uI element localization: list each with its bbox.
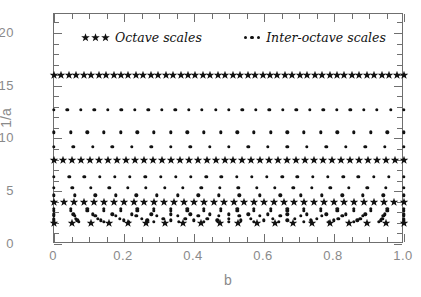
inter-octave-scale-point bbox=[356, 219, 359, 222]
tick-mark bbox=[159, 237, 160, 242]
octave-scale-point bbox=[274, 155, 283, 164]
inter-octave-scale-point bbox=[208, 145, 211, 148]
inter-octave-scale-point bbox=[163, 186, 166, 189]
inter-octave-scale-point bbox=[322, 108, 325, 111]
inter-octave-scale-point bbox=[135, 214, 138, 217]
tick-mark bbox=[397, 128, 402, 129]
inter-octave-scale-point bbox=[402, 108, 405, 111]
octave-scale-point bbox=[301, 155, 310, 164]
inter-octave-scale-point bbox=[169, 130, 172, 133]
inter-octave-scale-point bbox=[258, 214, 261, 217]
inter-octave-scale-point bbox=[359, 217, 362, 220]
tick-mark bbox=[124, 234, 125, 242]
inter-octave-scale-point bbox=[357, 175, 360, 178]
inter-octave-scale-point bbox=[320, 214, 323, 217]
inter-octave-scale-point bbox=[147, 108, 150, 111]
inter-octave-scale-point bbox=[52, 175, 55, 178]
x-tick-label: 0.8 bbox=[323, 248, 343, 263]
octave-scale-point bbox=[238, 155, 247, 164]
dot-icon bbox=[243, 36, 261, 39]
octave-scale-point bbox=[184, 155, 193, 164]
octave-scale-point bbox=[140, 197, 149, 206]
inter-octave-scale-point bbox=[302, 130, 305, 133]
tick-mark bbox=[387, 237, 388, 242]
inter-octave-scale-point bbox=[98, 175, 101, 178]
tick-mark bbox=[397, 117, 402, 118]
inter-octave-scale-point bbox=[325, 212, 328, 215]
inter-octave-scale-point bbox=[247, 212, 250, 215]
tick-mark bbox=[317, 14, 318, 19]
octave-scale-point bbox=[210, 197, 219, 206]
tick-mark bbox=[54, 22, 59, 23]
inter-octave-scale-point bbox=[250, 175, 253, 178]
y-tick-label: 20 bbox=[0, 24, 14, 39]
inter-octave-scale-point bbox=[279, 214, 282, 217]
inter-octave-scale-point bbox=[268, 108, 271, 111]
figure-root: 1/a b 05101520 00.20.40.60.81.0 Octave s… bbox=[0, 0, 421, 297]
octave-scale-point bbox=[157, 155, 166, 164]
inter-octave-scale-point bbox=[308, 108, 311, 111]
inter-octave-scale-point bbox=[133, 108, 136, 111]
inter-octave-scale-point bbox=[102, 209, 105, 212]
tick-mark bbox=[247, 14, 248, 19]
inter-octave-scale-point bbox=[71, 186, 74, 189]
inter-octave-scale-point bbox=[181, 186, 184, 189]
inter-octave-scale-point bbox=[369, 130, 372, 133]
inter-octave-scale-point bbox=[52, 130, 55, 133]
tick-mark bbox=[264, 234, 265, 242]
inter-octave-scale-point bbox=[219, 209, 222, 212]
inter-octave-scale-point bbox=[375, 108, 378, 111]
inter-octave-scale-point bbox=[319, 130, 322, 133]
tick-mark bbox=[397, 22, 402, 23]
octave-scale-point bbox=[310, 155, 319, 164]
inter-octave-scale-point bbox=[266, 212, 269, 215]
inter-octave-scale-point bbox=[68, 175, 71, 178]
tick-mark bbox=[352, 237, 353, 242]
octave-scale-point bbox=[202, 155, 211, 164]
inter-octave-scale-point bbox=[174, 175, 177, 178]
tick-mark bbox=[397, 54, 402, 55]
inter-octave-scale-point bbox=[281, 108, 284, 111]
octave-scale-point bbox=[319, 155, 328, 164]
inter-octave-scale-point bbox=[332, 219, 335, 222]
inter-octave-scale-point bbox=[299, 214, 302, 217]
inter-octave-scale-point bbox=[86, 209, 89, 212]
inter-octave-scale-point bbox=[402, 145, 405, 148]
octave-scale-point bbox=[360, 197, 369, 206]
inter-octave-scale-point bbox=[286, 130, 289, 133]
octave-scale-point bbox=[150, 197, 159, 206]
tick-mark bbox=[54, 14, 55, 22]
inter-octave-scale-point bbox=[136, 130, 139, 133]
inter-octave-scale-point bbox=[176, 214, 179, 217]
octave-scale-point bbox=[270, 197, 279, 206]
y-tick-label: 15 bbox=[0, 77, 14, 92]
legend-entry-octave: Octave scales bbox=[81, 30, 202, 45]
inter-octave-scale-point bbox=[311, 175, 314, 178]
octave-scale-point bbox=[292, 155, 301, 164]
octave-scale-point bbox=[337, 155, 346, 164]
legend: Octave scalesInter-octave scales bbox=[53, 30, 403, 52]
inter-octave-scale-point bbox=[295, 108, 298, 111]
inter-octave-scale-point bbox=[262, 219, 265, 222]
octave-scale-point bbox=[364, 155, 373, 164]
inter-octave-scale-point bbox=[265, 175, 268, 178]
tick-mark bbox=[397, 149, 402, 150]
octave-scale-point bbox=[121, 155, 130, 164]
inter-octave-scale-point bbox=[130, 145, 133, 148]
tick-mark bbox=[397, 212, 402, 213]
octave-scale-point bbox=[200, 197, 209, 206]
octave-scale-point bbox=[370, 197, 379, 206]
inter-octave-scale-point bbox=[281, 175, 284, 178]
inter-octave-scale-point bbox=[113, 175, 116, 178]
octave-scale-point bbox=[170, 197, 179, 206]
inter-octave-scale-point bbox=[111, 145, 114, 148]
octave-scale-point bbox=[180, 197, 189, 206]
star-icon bbox=[81, 33, 110, 42]
inter-octave-scale-point bbox=[126, 186, 129, 189]
inter-octave-scale-point bbox=[341, 175, 344, 178]
inter-octave-scale-point bbox=[155, 214, 158, 217]
octave-scale-point bbox=[90, 197, 99, 206]
inter-octave-scale-point bbox=[227, 212, 230, 215]
tick-mark bbox=[177, 14, 178, 19]
inter-octave-scale-point bbox=[365, 186, 368, 189]
